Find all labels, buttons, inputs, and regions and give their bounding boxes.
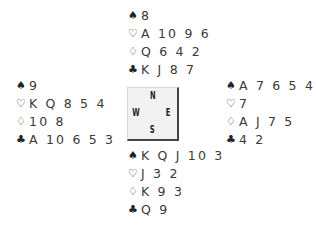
east-diamonds-cards: A J 7 5 [239, 113, 294, 131]
west-spades-row: ♠ 9 [14, 77, 115, 95]
heart-icon: ♡ [224, 95, 238, 113]
heart-icon: ♡ [126, 165, 140, 183]
club-icon: ♣ [126, 61, 140, 79]
west-hand: ♠ 9 ♡ K Q 8 5 4 ♢ 10 8 ♣ A 10 6 5 3 [14, 77, 115, 149]
spade-icon: ♠ [126, 7, 140, 25]
north-hearts-row: ♡ A 10 9 6 [126, 25, 211, 43]
compass-box: N W E S [127, 87, 179, 141]
west-diamonds-cards: 10 8 [29, 113, 66, 131]
east-spades-row: ♠ A 7 6 5 4 2 [224, 77, 316, 95]
compass-north-label: N [150, 90, 156, 101]
west-diamonds-row: ♢ 10 8 [14, 113, 115, 131]
north-diamonds-cards: Q 6 4 2 [141, 43, 202, 61]
north-clubs-row: ♣ K J 8 7 [126, 61, 211, 79]
north-clubs-cards: K J 8 7 [141, 61, 196, 79]
heart-icon: ♡ [14, 95, 28, 113]
north-hearts-cards: A 10 9 6 [141, 25, 211, 43]
south-hand: ♠ K Q J 10 3 ♡ J 3 2 ♢ K 9 3 ♣ Q 9 [126, 147, 224, 219]
east-clubs-cards: 4 2 [239, 131, 265, 149]
west-clubs-cards: A 10 6 5 3 [29, 131, 115, 149]
west-hearts-row: ♡ K Q 8 5 4 [14, 95, 115, 113]
north-spades-cards: 8 [141, 7, 151, 25]
south-hearts-row: ♡ J 3 2 [126, 165, 224, 183]
east-hearts-cards: 7 [239, 95, 249, 113]
south-diamonds-row: ♢ K 9 3 [126, 183, 224, 201]
north-spades-row: ♠ 8 [126, 7, 211, 25]
east-clubs-row: ♣ 4 2 [224, 131, 316, 149]
spade-icon: ♠ [224, 77, 238, 95]
diamond-icon: ♢ [126, 183, 140, 201]
south-hearts-cards: J 3 2 [141, 165, 180, 183]
east-hand: ♠ A 7 6 5 4 2 ♡ 7 ♢ A J 7 5 ♣ 4 2 [224, 77, 316, 149]
east-hearts-row: ♡ 7 [224, 95, 316, 113]
heart-icon: ♡ [126, 25, 140, 43]
north-diamonds-row: ♢ Q 6 4 2 [126, 43, 211, 61]
club-icon: ♣ [14, 131, 28, 149]
compass-west-label: W [132, 107, 139, 118]
south-clubs-row: ♣ Q 9 [126, 201, 224, 219]
west-spades-cards: 9 [29, 77, 39, 95]
diamond-icon: ♢ [14, 113, 28, 131]
diamond-icon: ♢ [126, 43, 140, 61]
west-hearts-cards: K Q 8 5 4 [29, 95, 107, 113]
club-icon: ♣ [126, 201, 140, 219]
east-spades-cards: A 7 6 5 4 2 [239, 77, 316, 95]
south-clubs-cards: Q 9 [141, 201, 169, 219]
spade-icon: ♠ [14, 77, 28, 95]
compass-east-label: E [166, 107, 171, 118]
east-diamonds-row: ♢ A J 7 5 [224, 113, 316, 131]
south-diamonds-cards: K 9 3 [141, 183, 184, 201]
south-spades-row: ♠ K Q J 10 3 [126, 147, 224, 165]
south-spades-cards: K Q J 10 3 [141, 147, 224, 165]
west-clubs-row: ♣ A 10 6 5 3 [14, 131, 115, 149]
spade-icon: ♠ [126, 147, 140, 165]
diamond-icon: ♢ [224, 113, 238, 131]
north-hand: ♠ 8 ♡ A 10 9 6 ♢ Q 6 4 2 ♣ K J 8 7 [126, 7, 211, 79]
compass-south-label: S [150, 124, 155, 135]
club-icon: ♣ [224, 131, 238, 149]
